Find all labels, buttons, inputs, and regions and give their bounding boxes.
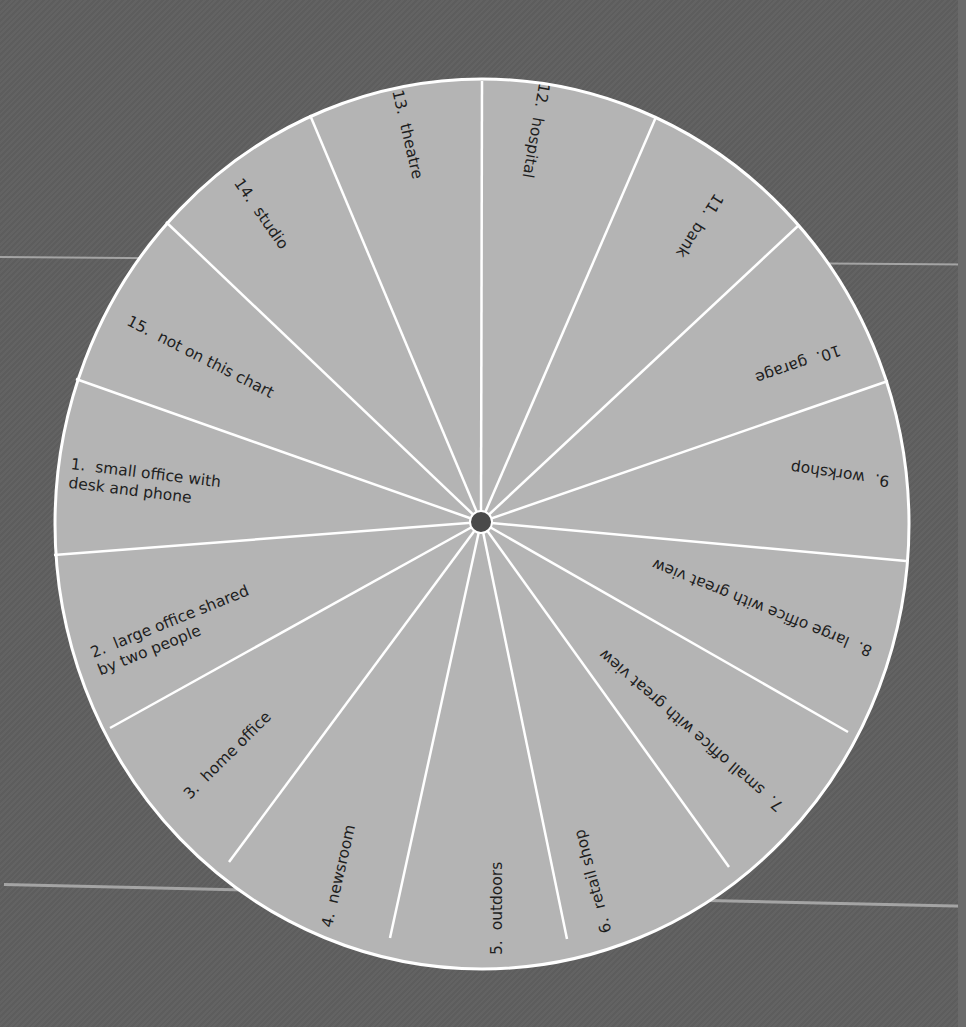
hub-dot — [470, 511, 492, 533]
segment-label-5: 5. outdoors — [488, 862, 507, 955]
wheel-diagram — [0, 0, 966, 1027]
segment-divider — [481, 81, 482, 522]
